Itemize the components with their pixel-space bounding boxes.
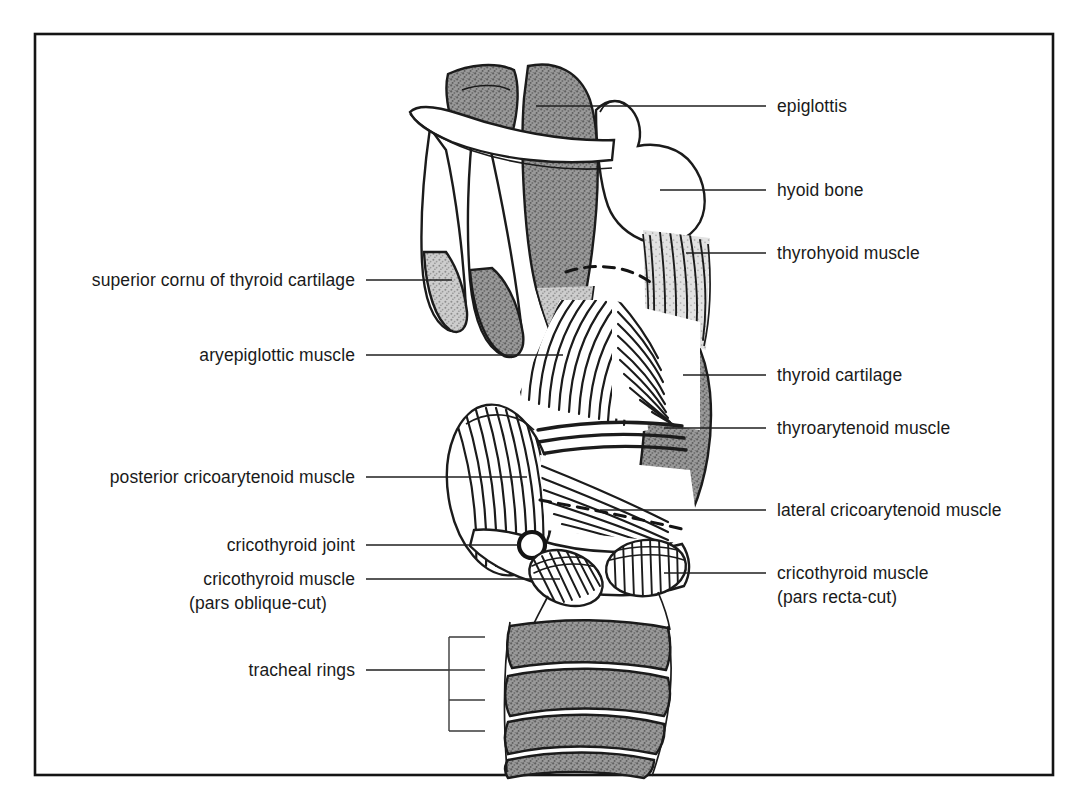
- label-cricothyroid-pars-recta-line2: (pars recta-cut): [777, 587, 897, 607]
- label-thyrohyoid-muscle-text: thyrohyoid muscle: [777, 243, 920, 263]
- tracheal-ring-1: [507, 620, 670, 670]
- hyoid-bone-body: [596, 101, 705, 244]
- label-thyroid-cartilage: thyroid cartilage: [683, 365, 902, 385]
- label-aryepiglottic-muscle-text: aryepiglottic muscle: [199, 345, 355, 365]
- label-posterior-cricoarytenoid-text: posterior cricoarytenoid muscle: [110, 467, 355, 487]
- tracheal-rings-bracket: [449, 637, 485, 731]
- label-thyroid-cartilage-text: thyroid cartilage: [777, 365, 902, 385]
- label-tracheal-rings-text: tracheal rings: [249, 660, 356, 680]
- label-thyrohyoid-muscle: thyrohyoid muscle: [686, 243, 920, 263]
- label-epiglottis-text: epiglottis: [777, 96, 847, 116]
- larynx-illustration: [410, 64, 714, 778]
- label-cricothyroid-pars-oblique-line1: cricothyroid muscle: [203, 569, 355, 589]
- anatomy-figure: superior cornu of thyroid cartilage arye…: [0, 0, 1088, 806]
- tracheal-ring-2: [505, 669, 670, 716]
- label-cricothyroid-pars-recta-line1: cricothyroid muscle: [777, 563, 929, 583]
- label-superior-cornu: superior cornu of thyroid cartilage: [92, 270, 452, 290]
- label-lateral-cricoarytenoid-text: lateral cricoarytenoid muscle: [777, 500, 1002, 520]
- label-cricothyroid-pars-oblique-line2: (pars oblique-cut): [189, 593, 327, 613]
- label-superior-cornu-text: superior cornu of thyroid cartilage: [92, 270, 355, 290]
- label-tracheal-rings: tracheal rings: [249, 637, 485, 731]
- label-thyroarytenoid-muscle-text: thyroarytenoid muscle: [777, 418, 950, 438]
- label-cricothyroid-joint-text: cricothyroid joint: [227, 535, 355, 555]
- label-cricothyroid-pars-recta: cricothyroid muscle (pars recta-cut): [664, 563, 929, 607]
- label-hyoid-bone-text: hyoid bone: [777, 180, 864, 200]
- tracheal-ring-3: [505, 715, 665, 754]
- cricothyroid-strand-right: [658, 592, 670, 630]
